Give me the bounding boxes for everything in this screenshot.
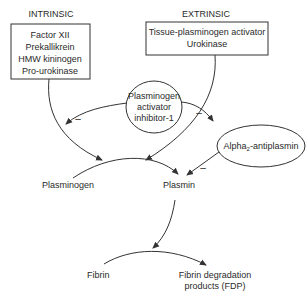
intrinsic-item-prekallikrein: Prekallikrein [25,42,74,52]
inhibition-mark-extrinsic: – [196,107,202,118]
intrinsic-item-pro-urokinase: Pro-urokinase [22,66,78,76]
plasmin-to-fibrin-arrow [153,200,175,248]
intrinsic-item-hmw-kininogen: HMW kininogen [18,54,82,64]
extrinsic-item-tpa: Tissue-plasminogen activator [149,27,266,37]
intrinsic-heading: INTRINSIC [29,9,75,19]
inhibition-mark-antiplasmin: – [200,162,206,173]
plasmin-label: Plasmin [163,180,195,190]
antiplasmin-label: Alpha2-antiplasmin [224,141,299,152]
extrinsic-item-urokinase: Urokinase [187,39,228,49]
intrinsic-item-factor-xii: Factor XII [30,30,69,40]
plasminogen-to-plasmin-arc [73,158,178,178]
fdp-line-2: products (FDP) [184,281,245,291]
fibrin-label: Fibrin [87,270,110,280]
fibrinolysis-diagram: INTRINSIC Factor XII Prekallikrein HMW k… [0,0,308,298]
inhibitor-line-2: activator [137,102,171,112]
fibrin-to-fdp-arc [104,251,206,265]
inhibitor-line-1: Plasminogen [128,91,180,101]
extrinsic-heading: EXTRINSIC [182,9,231,19]
inhibition-mark-intrinsic: – [75,113,81,124]
fdp-line-1: Fibrin degradation [179,270,252,280]
inhibitor-line-3: inhibitor-1 [134,113,174,123]
plasminogen-label: Plasminogen [42,180,94,190]
